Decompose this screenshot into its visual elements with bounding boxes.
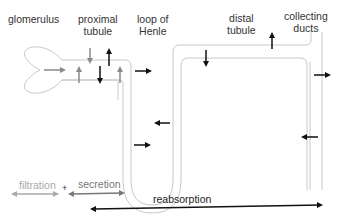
proximal-label-line1: proximal: [78, 13, 118, 25]
loop-label-line2: Henle: [137, 25, 169, 37]
descending-limb-inner: [138, 52, 166, 198]
reabsorption-legend-arrow: [94, 205, 321, 209]
plus-sign: +: [62, 182, 67, 194]
secretion-legend-label: secretion: [78, 178, 121, 190]
collecting-label-line2: ducts: [284, 22, 328, 34]
glomerulus-label: glomerulus: [8, 13, 59, 25]
tubule-inner-wall: [62, 80, 118, 100]
proximal-tubule-label: proximal tubule: [78, 13, 118, 37]
reabsorption-legend-label: reabsorption: [153, 193, 211, 205]
collecting-label-line1: collecting: [284, 10, 328, 22]
filtration-legend-label: filtration: [19, 179, 56, 191]
loop-of-henle-label: loop of Henle: [137, 13, 169, 37]
distal-label-line2: tubule: [227, 24, 256, 36]
secretion-legend-arrow: [72, 193, 123, 194]
proximal-label-line2: tubule: [78, 25, 118, 37]
collecting-ducts-label: collecting ducts: [284, 10, 328, 34]
loop-label-line1: loop of: [137, 13, 169, 25]
distal-label-line1: distal: [227, 12, 256, 24]
distal-tubule-label: distal tubule: [227, 12, 256, 36]
